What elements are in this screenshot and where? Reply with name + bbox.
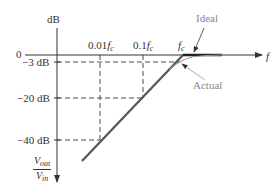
tick-label-minus20db: −20 dB <box>17 93 50 104</box>
actual-leader <box>182 64 205 80</box>
ideal-annotation: Ideal <box>196 13 218 24</box>
x-axis-label: f <box>266 51 269 62</box>
tick-label-fc: fc <box>178 40 185 54</box>
origin-label: 0 <box>16 49 22 60</box>
actual-annotation: Actual <box>193 80 222 91</box>
tick-label-minus40db: −40 dB <box>17 135 50 146</box>
tick-label-0.1fc: 0.1fc <box>133 40 153 54</box>
bode-plot: dB 0 f −3 dB −20 dB −40 dB 0.01fc 0.1fc … <box>0 0 273 195</box>
ideal-leader <box>194 28 204 52</box>
tick-label-minus3db: −3 dB <box>22 57 49 68</box>
vout-over-vin-label: Vout Vin <box>33 155 51 184</box>
y-axis-label: dB <box>47 14 60 25</box>
dashed-guides <box>57 55 180 140</box>
rolloff-line <box>82 55 183 161</box>
tick-label-0.01fc: 0.01fc <box>88 40 114 54</box>
